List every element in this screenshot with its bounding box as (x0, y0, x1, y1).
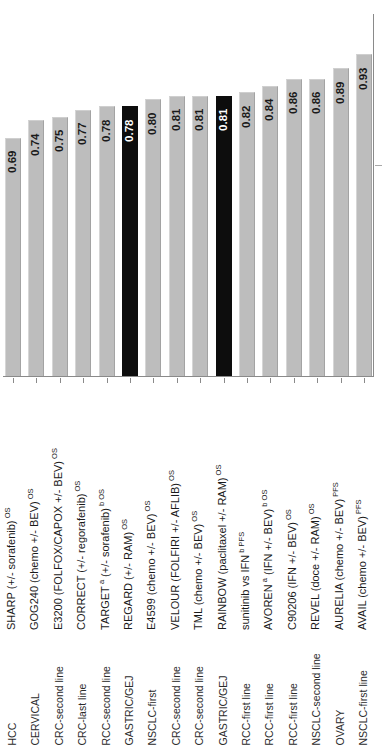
value-axis-line (373, 14, 374, 377)
bar-14[interactable]: 0.86 (309, 0, 325, 377)
trial-label: VELOUR (FOLFIRI +/- AFLIB) OS (170, 470, 181, 630)
tumour-group-label: CRC-second line (170, 666, 181, 745)
trial-label-text: sunitinib vs IFN (239, 555, 251, 630)
bar-rect: 0.69 (5, 138, 21, 377)
plot-area: 0.690.740.750.770.780.780.800.810.810.81… (0, 0, 387, 377)
bar-rect: 0.84 (262, 86, 278, 377)
trial-label-endpoint-marker: OS (3, 508, 12, 521)
trial-label-endpoint-marker: PFS (354, 500, 363, 517)
bar-15[interactable]: 0.89 (333, 0, 349, 377)
tumour-group-label: CRC-second line (194, 666, 205, 745)
bar-rect: 0.74 (28, 120, 44, 377)
tumour-group-label: NSCLC-second line (311, 653, 322, 745)
trial-label: AURELIA (chemo +/- BEV) PFS (334, 482, 345, 630)
trial-label: SHARP (+/- sorafenib) OS (6, 508, 17, 630)
bar-5[interactable]: 0.78 (99, 0, 115, 377)
tumour-group-label: CRC-last line (77, 683, 88, 745)
tumour-group-label: RCC-first line (241, 683, 252, 745)
bar-value-label: 0.81 (194, 109, 206, 131)
trial-label-endpoint-marker: OS (214, 465, 223, 478)
trial-label-endpoint-marker: OS (167, 470, 176, 483)
trial-label: E3200 (FOLFOX/CAPOX +/- BEV) OS (53, 448, 64, 630)
trial-label-regimen: (IFN +/- BEV) (262, 509, 274, 578)
bar-10[interactable]: 0.81 (216, 0, 232, 377)
trial-label-endpoint-marker: OS (191, 511, 200, 524)
bar-rect: 0.78 (99, 106, 115, 377)
bar-rect-highlighted: 0.81 (216, 96, 232, 377)
trial-label: AVAIL (chemo +/- BEV) PFS (357, 500, 368, 630)
bar-series: 0.690.740.750.770.780.780.800.810.810.81… (0, 0, 387, 377)
tumour-group-label: OVARY (334, 709, 345, 745)
trial-label-text: CORRECT (+/- regorafenib) (75, 494, 87, 630)
bar-7[interactable]: 0.80 (145, 0, 161, 377)
tumour-group-label: RCC-first line (287, 683, 298, 745)
trial-label: GOG240 (chemo +/- BEV) OS (29, 488, 40, 630)
tumour-group-label: RCC-second line (100, 666, 111, 745)
bar-4[interactable]: 0.77 (75, 0, 91, 377)
bar-value-label: 0.78 (101, 119, 113, 141)
bar-rect: 0.86 (309, 79, 325, 377)
bar-rect: 0.81 (169, 96, 185, 377)
bar-rect: 0.89 (333, 68, 349, 377)
trial-label-endpoint-marker: b OS (97, 489, 106, 508)
trial-label-text: RAINBOW (paclitaxel +/- RAM) (216, 478, 228, 631)
bar-value-label: 0.81 (171, 109, 183, 131)
category-axis-line (3, 376, 373, 377)
tumour-group-label: CERVICAL (30, 693, 41, 745)
trial-label-endpoint-marker: OS (144, 501, 153, 514)
bar-value-label: 0.93 (358, 67, 370, 89)
bar-rect: 0.80 (145, 99, 161, 377)
bar-value-label: 0.84 (265, 99, 277, 121)
bar-8[interactable]: 0.81 (169, 0, 185, 377)
bar-rect: 0.77 (75, 110, 91, 377)
tumour-group-label: GASTRIC/GEJ (217, 675, 228, 745)
trial-label-endpoint-marker: OS (308, 503, 317, 516)
bar-2[interactable]: 0.74 (28, 0, 44, 377)
bar-11[interactable]: 0.82 (239, 0, 255, 377)
bar-12[interactable]: 0.84 (262, 0, 278, 377)
trial-label-endpoint-marker: OS (27, 488, 36, 501)
trial-label-text: C90206 (IFN +/- BEV) (286, 522, 298, 630)
trial-label-footnote-marker: a (97, 580, 106, 586)
trial-label-footnote-marker: a (261, 578, 270, 584)
bar-value-label: 0.80 (148, 112, 160, 134)
bar-value-label: 0.86 (288, 92, 300, 114)
bar-rect-highlighted: 0.78 (122, 106, 138, 377)
tumour-group-label: GASTRIC/GEJ (124, 675, 135, 745)
trial-label: REGARD (+/- RAM) OS (123, 519, 134, 630)
bar-13[interactable]: 0.86 (286, 0, 302, 377)
bar-value-label: 0.81 (218, 109, 230, 131)
trial-label-endpoint-marker: OS (74, 481, 83, 494)
bar-1[interactable]: 0.69 (5, 0, 21, 377)
bar-value-label: 0.77 (77, 123, 89, 145)
tumour-group-label: CRC-second line (53, 666, 64, 745)
bar-value-label: 0.74 (31, 133, 43, 155)
bar-value-label: 0.89 (335, 81, 347, 103)
trial-label: E4599 (chemo +/- BEV) OS (146, 501, 157, 630)
trial-label-text: AVAIL (chemo +/- BEV) (356, 516, 368, 630)
bar-6[interactable]: 0.78 (122, 0, 138, 377)
tumour-group-label: RCC-first line (264, 683, 275, 745)
value-axis-tick (375, 165, 382, 166)
trial-label-text: AVOREN (262, 584, 274, 630)
bar-rect: 0.75 (52, 117, 68, 377)
bar-rect: 0.82 (239, 92, 255, 377)
tumour-group-label-group: HCCCERVICALCRC-second lineCRC-last lineR… (0, 634, 387, 745)
tumour-group-label: NSCLC-first line (358, 670, 369, 745)
bar-3[interactable]: 0.75 (52, 0, 68, 377)
bar-16[interactable]: 0.93 (356, 0, 372, 377)
bar-value-label: 0.69 (7, 151, 19, 173)
trial-label-group: SHARP (+/- sorafenib) OSGOG240 (chemo +/… (0, 383, 387, 630)
bar-rect: 0.86 (286, 79, 302, 377)
bar-9[interactable]: 0.81 (192, 0, 208, 377)
trial-label-endpoint-marker: b PFS (237, 532, 246, 555)
trial-label-text: AURELIA (chemo +/- BEV) (333, 499, 345, 630)
trial-label-text: REVEL (doce +/- RAM) (309, 516, 321, 630)
trial-label: RAINBOW (paclitaxel +/- RAM) OS (217, 465, 228, 630)
tumour-group-label: HCC (7, 722, 18, 745)
bar-rect: 0.81 (192, 96, 208, 377)
trial-label-endpoint-marker: OS (284, 509, 293, 522)
bar-value-label: 0.86 (311, 92, 323, 114)
trial-label: REVEL (doce +/- RAM) OS (310, 503, 321, 630)
trial-label-text: VELOUR (FOLFIRI +/- AFLIB) (169, 483, 181, 630)
